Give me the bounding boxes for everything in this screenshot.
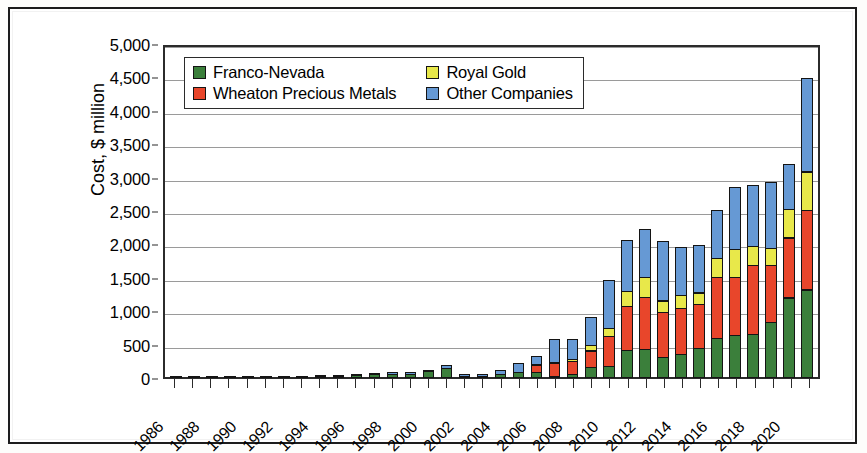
stacked-bar[interactable] bbox=[296, 376, 308, 377]
stacked-bar[interactable] bbox=[206, 376, 218, 377]
bar-segment-rg bbox=[657, 301, 669, 314]
stacked-bar[interactable] bbox=[405, 372, 417, 377]
stacked-bar[interactable] bbox=[423, 370, 435, 377]
bar-segment-rg bbox=[621, 291, 633, 306]
stacked-bar[interactable] bbox=[747, 185, 759, 378]
stacked-bar[interactable] bbox=[315, 375, 327, 377]
bar-segment-oc bbox=[585, 317, 597, 346]
x-axis-tick-mark bbox=[482, 379, 483, 388]
bar-segment-rg bbox=[783, 209, 795, 238]
stacked-bar[interactable] bbox=[711, 210, 723, 377]
stacked-bar[interactable] bbox=[260, 376, 272, 377]
bar-segment-fn bbox=[423, 371, 435, 377]
stacked-bar[interactable] bbox=[729, 187, 741, 377]
bar-slot bbox=[708, 47, 726, 377]
legend-label: Franco-Nevada bbox=[213, 63, 324, 82]
bar-segment-wpm bbox=[747, 265, 759, 334]
stacked-bar[interactable] bbox=[639, 229, 651, 377]
stacked-bar[interactable] bbox=[170, 376, 182, 377]
y-axis-tick-label: 0 bbox=[141, 370, 150, 389]
y-axis-tick-mark bbox=[152, 312, 158, 313]
stacked-bar[interactable] bbox=[495, 370, 507, 377]
x-axis-tick-mark bbox=[755, 379, 756, 388]
bar-segment-oc bbox=[639, 229, 651, 278]
bar-slot bbox=[618, 47, 636, 377]
stacked-bar[interactable] bbox=[657, 241, 669, 377]
stacked-bar[interactable] bbox=[585, 317, 597, 377]
bar-slot bbox=[167, 47, 185, 377]
y-axis-tick-mark bbox=[152, 379, 158, 380]
y-axis: 05001,0001,5002,0002,5003,0003,5004,0004… bbox=[80, 45, 158, 379]
stacked-bar[interactable] bbox=[477, 374, 489, 377]
bar-segment-fn bbox=[170, 376, 182, 378]
legend-swatch-icon bbox=[193, 87, 206, 100]
legend-label: Wheaton Precious Metals bbox=[213, 84, 396, 103]
legend-item[interactable]: Wheaton Precious Metals bbox=[193, 84, 396, 103]
y-axis-tick-mark bbox=[152, 145, 158, 146]
stacked-bar[interactable] bbox=[801, 78, 813, 377]
figure-frame: Cost, $ million 05001,0001,5002,0002,500… bbox=[8, 7, 857, 444]
bar-segment-fn bbox=[495, 374, 507, 378]
stacked-bar[interactable] bbox=[621, 240, 633, 377]
bar-segment-fn bbox=[567, 374, 579, 377]
bar-segment-fn bbox=[621, 350, 633, 378]
bar-segment-fn bbox=[585, 367, 597, 378]
bar-segment-rg bbox=[675, 295, 687, 309]
legend-swatch-icon bbox=[426, 87, 439, 100]
bar-segment-oc bbox=[693, 245, 705, 293]
stacked-bar[interactable] bbox=[188, 376, 200, 377]
x-axis-tick-mark bbox=[773, 379, 774, 388]
stacked-bar[interactable] bbox=[441, 365, 453, 377]
stacked-bar[interactable] bbox=[459, 374, 471, 377]
y-axis-tick-label: 1,000 bbox=[110, 303, 150, 322]
bar-segment-wpm bbox=[639, 297, 651, 350]
stacked-bar[interactable] bbox=[603, 280, 615, 377]
stacked-bar[interactable] bbox=[387, 372, 399, 377]
bar-segment-wpm bbox=[783, 238, 795, 299]
stacked-bar[interactable] bbox=[513, 363, 525, 377]
x-axis-tick-mark bbox=[664, 379, 665, 388]
y-axis-tick-label: 5,000 bbox=[110, 36, 150, 55]
legend-item[interactable]: Royal Gold bbox=[426, 63, 572, 82]
stacked-bar[interactable] bbox=[531, 356, 543, 377]
x-axis-tick-mark bbox=[700, 379, 701, 388]
bar-slot bbox=[690, 47, 708, 377]
legend-item[interactable]: Other Companies bbox=[426, 84, 572, 103]
bar-segment-wpm bbox=[567, 361, 579, 375]
stacked-bar[interactable] bbox=[333, 375, 345, 377]
bar-segment-oc bbox=[729, 187, 741, 250]
bar-segment-oc bbox=[801, 78, 813, 172]
x-axis-tick-mark bbox=[265, 379, 266, 388]
stacked-bar[interactable] bbox=[765, 182, 777, 377]
stacked-bar[interactable] bbox=[783, 164, 795, 377]
x-axis-tick-mark bbox=[591, 379, 592, 388]
bar-segment-fn bbox=[513, 372, 525, 378]
stacked-bar[interactable] bbox=[549, 339, 561, 377]
bar-segment-wpm bbox=[675, 308, 687, 355]
x-axis-tick-mark bbox=[537, 379, 538, 388]
x-axis-tick-mark bbox=[718, 379, 719, 388]
stacked-bar[interactable] bbox=[278, 376, 290, 377]
stacked-bar[interactable] bbox=[224, 376, 236, 377]
bar-segment-wpm bbox=[621, 306, 633, 351]
x-axis-tick-mark bbox=[555, 379, 556, 388]
stacked-bar[interactable] bbox=[242, 376, 254, 377]
stacked-bar[interactable] bbox=[351, 374, 363, 377]
bar-segment-fn bbox=[675, 354, 687, 377]
bar-segment-fn bbox=[405, 374, 417, 378]
bar-segment-fn bbox=[296, 376, 308, 378]
bar-segment-rg bbox=[801, 172, 813, 211]
x-axis-tick-mark bbox=[247, 379, 248, 388]
stacked-bar[interactable] bbox=[675, 247, 687, 377]
legend-item[interactable]: Franco-Nevada bbox=[193, 63, 396, 82]
bar-slot bbox=[726, 47, 744, 377]
y-axis-tick-mark bbox=[152, 45, 158, 46]
bar-segment-fn bbox=[747, 334, 759, 378]
y-axis-tick-label: 2,500 bbox=[110, 203, 150, 222]
y-axis-tick-label: 4,500 bbox=[110, 69, 150, 88]
chart-legend: Franco-NevadaRoyal GoldWheaton Precious … bbox=[184, 57, 584, 109]
stacked-bar[interactable] bbox=[369, 373, 381, 377]
bar-segment-fn bbox=[387, 374, 399, 378]
stacked-bar[interactable] bbox=[567, 339, 579, 377]
stacked-bar[interactable] bbox=[693, 245, 705, 377]
